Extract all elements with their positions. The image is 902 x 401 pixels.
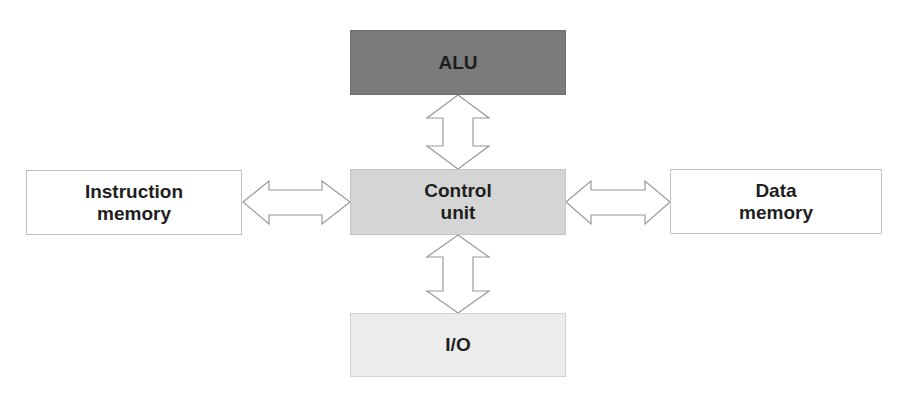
instruction-memory-label-line2: memory xyxy=(85,203,183,225)
double-arrow-control-io xyxy=(427,235,489,313)
data-memory-label-line1: Data xyxy=(739,180,813,202)
double-arrow-instruction-control xyxy=(243,181,350,224)
data-memory-label-line2: memory xyxy=(739,202,813,224)
io-label: I/O xyxy=(445,334,470,356)
instruction-memory-label-line1: Instruction xyxy=(85,181,183,203)
control-unit-block: Control unit xyxy=(350,169,566,235)
control-unit-label-line1: Control xyxy=(424,180,492,202)
io-block: I/O xyxy=(350,313,566,377)
data-memory-block: Data memory xyxy=(670,169,882,234)
alu-block: ALU xyxy=(350,30,566,95)
instruction-memory-block: Instruction memory xyxy=(26,170,242,235)
double-arrow-alu-control xyxy=(427,95,489,169)
control-unit-label-line2: unit xyxy=(424,202,492,224)
alu-label: ALU xyxy=(438,52,477,74)
double-arrow-control-data xyxy=(566,181,670,224)
